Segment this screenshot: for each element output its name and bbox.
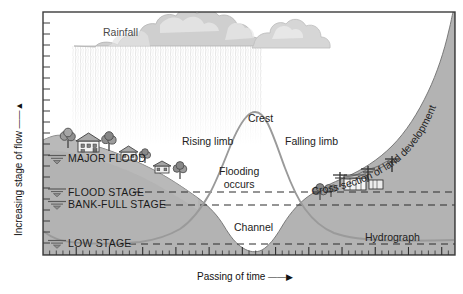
cross-section-label: Cross section of land development [311, 103, 438, 197]
cross-section-label-text: Cross section of land development [311, 103, 438, 197]
hydrograph-figure: Increasing stage of flow ——▲ Passing of … [0, 0, 463, 294]
cross-section-text-layer: Cross section of land development [0, 0, 463, 294]
